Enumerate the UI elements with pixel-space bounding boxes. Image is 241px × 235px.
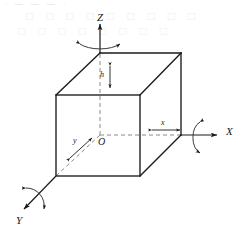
figure-root: · — — — · □ □ □ □ □ □ □ □ □ □ □ □ □ □ □ …	[0, 0, 241, 235]
x-axis-group	[181, 122, 217, 153]
z-axis-group	[80, 24, 120, 53]
axis-label-z: Z	[97, 11, 103, 23]
origin-label: O	[98, 136, 105, 147]
box-edge-top-right-oblique	[140, 53, 181, 95]
box-edges-group	[56, 53, 181, 176]
box-edge-top-left-oblique	[56, 53, 100, 95]
y-axis-group	[24, 176, 56, 209]
dimension-label-y: y	[73, 136, 77, 145]
axis-label-x: X	[226, 125, 233, 137]
axis-label-y: Y	[16, 214, 22, 226]
dimension-arrows-group	[70, 66, 180, 158]
x-rotation-arc	[193, 122, 200, 153]
cube-axes-diagram	[0, 0, 241, 235]
hidden-edge-back-bottom-oblique	[56, 135, 100, 176]
box-edge-bottom-right-oblique	[140, 135, 181, 176]
dimension-label-x: x	[161, 118, 165, 127]
y-axis-line	[24, 176, 56, 209]
dimension-label-h: h	[100, 70, 104, 79]
